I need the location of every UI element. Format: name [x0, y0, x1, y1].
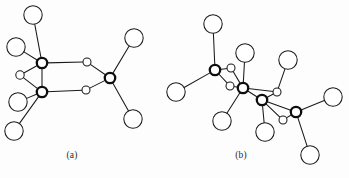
atom-ligand-5: [125, 29, 143, 47]
panel-a-label: (a): [66, 150, 77, 161]
bond-metal-1-ligand-2: [23, 52, 37, 61]
bond-bridge-1-metal-3: [90, 64, 106, 75]
atom-metal-3: [105, 73, 115, 83]
atom-ligand-6: [124, 110, 142, 128]
bond-metal-4-ligand-8: [297, 117, 307, 147]
bond-metal-1-ligand-2: [184, 72, 211, 87]
molecular-structure-figure: (a) (b): [0, 0, 349, 178]
atom-metal-3: [257, 95, 267, 105]
bond-bridge-1-metal-2: [233, 71, 241, 84]
atom-metal-1: [37, 58, 47, 68]
atom-ligand-1: [204, 15, 222, 33]
atom-ligand-4: [5, 122, 23, 140]
atom-ligand-3: [236, 44, 254, 62]
bond-metal-2-ligand-3: [243, 62, 244, 83]
bond-metal-4-ligand-7: [300, 100, 324, 110]
atom-ligand-5: [213, 112, 231, 130]
atom-metal-4: [291, 107, 301, 117]
bond-metal-2-ligand-5: [227, 92, 241, 114]
bond-bridge-2-metal-3: [89, 80, 105, 88]
atom-ligand-2: [167, 83, 185, 101]
atom-bridge-1: [227, 64, 235, 72]
atom-bridge-2: [226, 82, 234, 90]
bond-metal-1-ligand-1: [213, 33, 214, 65]
atom-ligand-3: [9, 93, 27, 111]
bond-metal-2-metal-3: [247, 91, 258, 98]
bond-metal-2-bridge-3: [23, 77, 38, 89]
atom-ligand-8: [301, 146, 319, 164]
panel-b-bonds: [184, 33, 325, 147]
atom-bridge-3: [273, 88, 281, 96]
bond-metal-1-ligand-1: [35, 24, 42, 59]
bond-metal-2-bridge-2: [47, 90, 83, 92]
atom-bridge-1: [83, 58, 91, 66]
atom-ligand-6: [256, 123, 274, 141]
panel-a: (a): [5, 6, 143, 161]
bond-metal-3-ligand-6: [112, 82, 128, 111]
bond-metal-3-ligand-5: [112, 46, 129, 74]
bond-metal-3-metal-4: [267, 102, 292, 111]
bond-metal-1-bridge-3: [23, 65, 37, 73]
atom-ligand-7: [324, 88, 342, 106]
atom-bridge-4: [279, 116, 287, 124]
bond-metal-3-ligand-6: [262, 105, 264, 123]
atom-ligand-4: [279, 51, 297, 69]
atom-metal-1: [210, 65, 220, 75]
bond-bridge-3-ligand-4: [278, 68, 285, 88]
panel-b-label: (b): [235, 150, 247, 161]
atom-metal-2: [238, 83, 248, 93]
atom-ligand-1: [24, 6, 42, 24]
atom-ligand-2: [7, 38, 25, 56]
bond-bridge-3-metal-2: [248, 89, 274, 92]
figure-container: (a) (b): [0, 0, 349, 178]
bond-metal-1-bridge-2: [218, 74, 227, 84]
bond-metal-1-bridge-1: [47, 62, 84, 63]
bond-metal-2-ligand-3: [26, 94, 37, 99]
panel-a-atoms: [5, 6, 143, 140]
panel-b: (b): [167, 15, 342, 164]
atom-bridge-2: [82, 86, 90, 94]
atom-metal-2: [37, 87, 47, 97]
atom-bridge-3: [16, 71, 24, 79]
